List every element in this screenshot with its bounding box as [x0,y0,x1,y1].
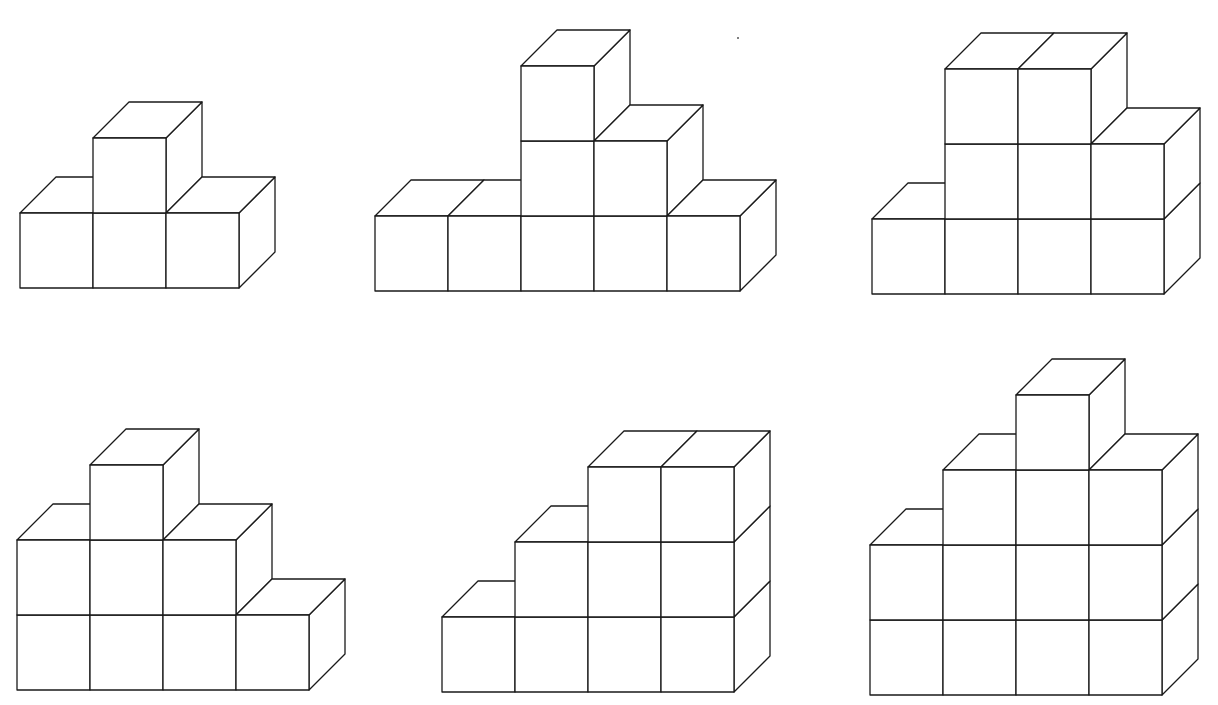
cube-front-face [945,219,1018,294]
cube-front-face [93,213,166,288]
cube-front-face [1016,470,1089,545]
cube-front-face [1091,144,1164,219]
cube-front-face [375,216,448,291]
cube-front-face [521,216,594,291]
cube-front-face [20,213,93,288]
figure-6 [870,359,1198,695]
cube-front-face [448,216,521,291]
cube-front-face [1089,620,1162,695]
cube-front-face [1018,144,1091,219]
cube-front-face [594,216,667,291]
cube-front-face [236,615,309,690]
cube-front-face [661,617,734,692]
cube-front-face [661,467,734,542]
cube-front-face [515,542,588,617]
cube-front-face [1089,545,1162,620]
cube-front-face [588,467,661,542]
figure-1 [20,102,275,288]
cube-front-face [1089,470,1162,545]
cube-front-face [90,540,163,615]
cube-front-face [17,540,90,615]
cube-front-face [943,545,1016,620]
cube-front-face [1091,219,1164,294]
cube-front-face [943,470,1016,545]
cube-front-face [870,620,943,695]
cube-front-face [870,545,943,620]
cube-front-face [442,617,515,692]
cube-front-face [588,617,661,692]
figure-2 [375,30,776,291]
cube-front-face [1016,545,1089,620]
cube-front-face [515,617,588,692]
cube-front-face [588,542,661,617]
cube-front-face [93,138,166,213]
cube-front-face [163,540,236,615]
cube-front-face [90,615,163,690]
stray-dot [737,37,739,39]
cube-front-face [166,213,239,288]
cube-front-face [1016,395,1089,470]
cube-front-face [17,615,90,690]
cube-front-face [872,219,945,294]
figure-3 [872,33,1200,294]
cube-front-face [90,465,163,540]
figure-5 [442,431,770,692]
cube-front-face [1016,620,1089,695]
cube-front-face [594,141,667,216]
cube-front-face [667,216,740,291]
cube-front-face [661,542,734,617]
cube-front-face [163,615,236,690]
cube-front-face [521,66,594,141]
cube-front-face [945,69,1018,144]
cube-front-face [521,141,594,216]
figure-4 [17,429,345,690]
cube-front-face [943,620,1016,695]
cube-front-face [1018,69,1091,144]
cube-front-face [1018,219,1091,294]
cube-front-face [945,144,1018,219]
cube-diagram-canvas [0,0,1218,705]
